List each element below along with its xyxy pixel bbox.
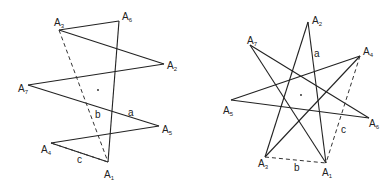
side-label: b [95,109,101,120]
side-label: a [128,107,134,118]
vertex-label: A6 [369,118,380,130]
star-edge [265,22,308,157]
vertex-label: A7 [18,83,29,95]
vertex-label: A6 [122,11,133,23]
vertex-label: A1 [104,169,115,181]
vertex-label: A5 [223,105,234,117]
heptagram-7-2: A1A2A3A4A5A6A7abc [18,11,178,181]
star-edge [51,126,159,143]
heptagram-7-3: A1A2A3A4A5A6A7abc [223,15,380,179]
star-edge [250,45,369,118]
star-edge [59,30,164,64]
vertex-label: A1 [322,167,333,179]
star-edge [108,21,119,162]
center-point [300,94,302,96]
vertex-label: A4 [41,144,52,156]
star-edge [231,100,369,118]
vertex-label: A4 [363,46,374,58]
vertex-label: A2 [312,15,323,27]
vertex-label: A5 [162,124,173,136]
star-edge [28,64,164,85]
vertex-label: A7 [247,35,258,47]
side-label: c [77,154,82,165]
star-edge [28,85,159,126]
side-label: a [314,48,320,59]
vertex-label: A3 [258,158,269,170]
diagram-canvas: A1A2A3A4A5A6A7abcA1A2A3A4A5A6A7abc [0,0,392,185]
side-label: b [294,162,300,173]
star-edge [59,21,119,30]
side-label: c [341,124,346,135]
center-point [97,89,99,91]
dashed-diagonal [59,30,108,162]
vertex-label: A2 [167,60,178,72]
vertex-label: A3 [54,17,65,29]
star-edge [308,22,326,163]
